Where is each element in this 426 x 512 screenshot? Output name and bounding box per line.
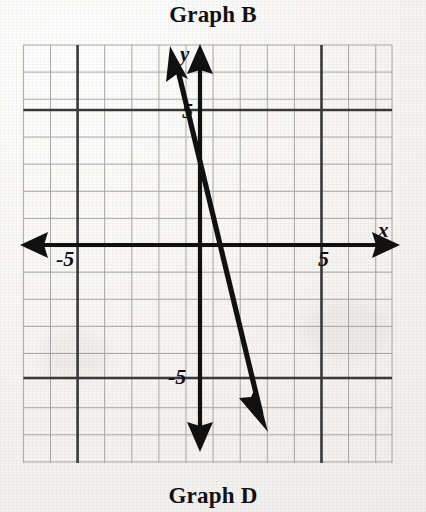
x-axis-label: x xyxy=(378,220,389,241)
y-axis-arrow-down xyxy=(187,422,213,452)
y-axis-arrow-up xyxy=(187,44,213,74)
x-axis-tick-label-positive-5: 5 xyxy=(318,248,329,270)
x-axis-arrow-left xyxy=(20,232,48,258)
y-axis-label: y xyxy=(180,44,189,65)
y-axis-tick-label-negative-5: -5 xyxy=(168,366,186,388)
line-arrow-lower xyxy=(239,386,268,432)
bottom-graph-label: Graph D xyxy=(0,483,426,509)
x-axis-tick-label-negative-5: -5 xyxy=(56,248,74,270)
y-axis-tick-label-positive-5: 5 xyxy=(182,100,193,122)
grid-major xyxy=(23,45,392,463)
worksheet-page: Graph B xyxy=(0,0,426,512)
